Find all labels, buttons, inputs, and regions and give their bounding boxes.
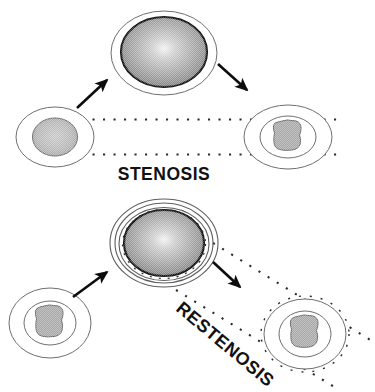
restenosis-label: RESTENOSIS	[172, 298, 278, 391]
restenosis-stage-after	[261, 296, 349, 372]
balloon-dither-overlay	[124, 210, 204, 276]
stenosis-row: STENOSIS	[16, 11, 340, 184]
restenosis-stage-stent	[110, 199, 218, 287]
stenosis-arrow-down-right	[218, 64, 247, 90]
plaque-dither-overlay	[33, 118, 78, 156]
stenosis-stage-before	[16, 107, 94, 167]
stenosis-label: STENOSIS	[118, 164, 211, 184]
plaque-dither-overlay	[273, 120, 301, 150]
diagram-root: STENOSIS	[0, 0, 375, 392]
diagram-canvas: STENOSIS	[0, 0, 375, 392]
restenosis-row: RESTENOSIS	[9, 199, 372, 391]
restenosis-stage-before	[9, 288, 91, 358]
balloon-dither-overlay	[121, 17, 207, 87]
restenosis-arrow-up-right	[73, 272, 107, 297]
plaque-dither-overlay	[35, 305, 63, 337]
stenosis-stage-after	[244, 105, 332, 169]
restenosis-arrow-down-right	[213, 262, 240, 287]
plaque-dither-overlay	[290, 315, 318, 347]
stenosis-arrow-up-right	[77, 80, 107, 108]
stenosis-stage-balloon	[111, 11, 217, 95]
